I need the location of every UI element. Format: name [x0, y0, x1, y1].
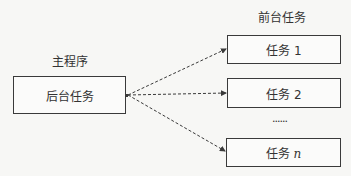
arrow-to-task-n — [128, 95, 225, 151]
dispatch-arrows — [0, 0, 351, 176]
arrow-to-task-2 — [128, 93, 226, 95]
arrow-to-task-1 — [128, 49, 226, 95]
origin-dot-icon — [125, 94, 128, 97]
